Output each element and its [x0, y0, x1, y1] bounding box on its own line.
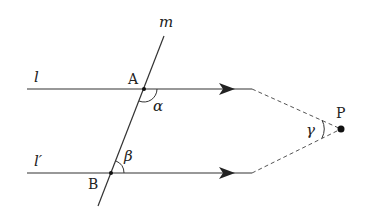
angle-gamma-arc — [322, 120, 324, 138]
label-m: m — [159, 13, 173, 31]
angle-beta-arc — [116, 161, 124, 173]
parallel-lines-diagram: l l′ m A B P α β γ — [0, 0, 369, 222]
label-l-prime: l′ — [34, 152, 43, 170]
line-m — [98, 36, 164, 206]
label-point-b: B — [88, 176, 98, 192]
dashed-extension-l-prime — [252, 129, 341, 173]
point-a-dot — [142, 87, 146, 91]
label-angle-gamma: γ — [306, 121, 315, 139]
dashed-extension-l — [252, 89, 341, 129]
label-l: l — [34, 68, 39, 86]
label-point-a: A — [127, 71, 139, 87]
label-point-p: P — [336, 105, 345, 121]
point-p-dot — [338, 126, 345, 133]
label-angle-alpha: α — [153, 97, 163, 115]
label-angle-beta: β — [123, 147, 133, 165]
point-b-dot — [109, 171, 113, 175]
